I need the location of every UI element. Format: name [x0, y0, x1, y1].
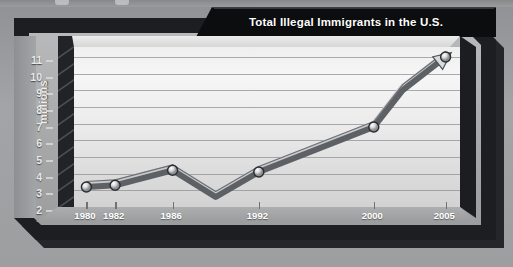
data-line-series	[72, 47, 460, 207]
chart-title: Total Illegal Immigrants in the U.S.	[196, 7, 496, 37]
y-axis-tick-label: 10	[24, 71, 42, 83]
x-axis-tick	[446, 202, 448, 209]
x-axis-tick	[86, 202, 88, 209]
y-axis-tick-dash	[46, 60, 53, 62]
y-axis-tick-label: 6	[24, 137, 42, 149]
y-axis-tick-label: 9	[24, 87, 42, 99]
y-axis-tick-dash	[46, 143, 53, 145]
y-axis-tick-dash	[46, 93, 53, 95]
y-axis-tick-label: 2	[24, 204, 42, 216]
x-axis-tick-label: 1986	[161, 210, 182, 221]
x-axis-tick-label: 2005	[434, 210, 455, 221]
right-edge-wall	[460, 36, 476, 218]
y-axis-tick-label: 5	[24, 154, 42, 166]
data-point-marker	[441, 52, 451, 62]
y-axis-tick-dash	[46, 127, 53, 129]
x-axis-tick-label: 2000	[362, 210, 383, 221]
y-axis-tick-label: 7	[24, 121, 42, 133]
clipped-top-strip	[0, 0, 513, 7]
data-point-marker	[369, 122, 379, 132]
x-axis-tick-label: 1992	[247, 210, 268, 221]
y-axis-tick-dash	[46, 160, 53, 162]
y-axis-tick-label: 4	[24, 171, 42, 183]
y-axis-tick-dash	[46, 110, 53, 112]
x-axis-tick-label: 1982	[103, 210, 124, 221]
chart-screenshot: Total Illegal Immigrants in the U.S. mil…	[0, 0, 513, 267]
data-point-marker	[110, 180, 120, 190]
y-axis-tick-dash	[46, 177, 53, 179]
y-axis-tick-dash	[46, 77, 53, 79]
x-axis-tick	[115, 202, 117, 209]
series-line	[86, 57, 445, 197]
y-axis-tick-label: 8	[24, 104, 42, 116]
plot-panel: millions 111098765432 198019821986199220…	[36, 36, 476, 222]
y-axis-tick-label: 11	[24, 54, 42, 66]
x-axis-tick-label: 1980	[74, 210, 95, 221]
data-point-marker	[168, 165, 178, 175]
data-point-marker	[254, 167, 264, 177]
y-axis-tick-dash	[46, 193, 53, 195]
x-axis-tick	[374, 202, 376, 209]
x-axis-tick	[173, 202, 175, 209]
y-axis-tick-label: 3	[24, 187, 42, 199]
data-point-marker	[81, 182, 91, 192]
x-axis-tick	[259, 202, 261, 209]
